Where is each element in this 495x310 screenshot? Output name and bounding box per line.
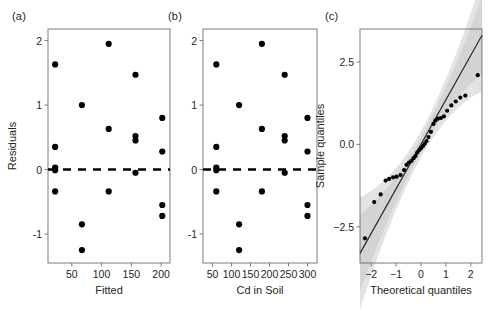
data-point <box>463 93 467 97</box>
data-point <box>476 73 480 77</box>
y-tick-label: -1 <box>188 228 197 240</box>
data-point <box>458 95 462 99</box>
data-point <box>379 192 383 196</box>
data-point <box>387 177 391 181</box>
x-tick-label: 100 <box>223 268 241 280</box>
x-tick-label: 50 <box>207 268 219 280</box>
y-tick-label: −2.5 <box>333 221 354 233</box>
data-point <box>398 173 402 177</box>
y-tick-label: 0.0 <box>339 138 354 150</box>
data-point <box>363 236 367 240</box>
qq-reference-line <box>360 35 482 253</box>
x-tick-label: 150 <box>123 268 141 280</box>
data-point <box>372 200 376 204</box>
y-tick-label: 2 <box>36 35 42 47</box>
figure-panel-group: (a) Residuals Fitted (b) Cd in Soil (c) … <box>0 0 495 310</box>
y-tick-label: 0 <box>191 164 197 176</box>
x-tick-label: −1 <box>390 268 402 280</box>
x-tick-label: 150 <box>242 268 260 280</box>
x-tick-label: 1 <box>443 268 449 280</box>
x-tick-label: 50 <box>66 268 78 280</box>
y-tick-label: 0 <box>36 164 42 176</box>
data-point <box>391 175 395 179</box>
x-tick-label: −2 <box>365 268 377 280</box>
data-point <box>395 175 399 179</box>
x-tick-label: 0 <box>418 268 424 280</box>
panel-c-plot <box>0 0 495 310</box>
data-point <box>445 109 449 113</box>
data-point <box>449 103 453 107</box>
y-tick-label: 2.5 <box>339 56 354 68</box>
data-point <box>424 139 428 143</box>
y-tick-label: 2 <box>191 35 197 47</box>
data-point <box>454 99 458 103</box>
panel-c-y-axis-title: Sample quantiles <box>314 104 326 188</box>
x-tick-label: 300 <box>299 268 317 280</box>
y-tick-label: -1 <box>33 228 42 240</box>
data-point <box>402 168 406 172</box>
y-tick-label: 1 <box>36 99 42 111</box>
y-tick-label: 1 <box>191 99 197 111</box>
x-tick-label: 200 <box>261 268 279 280</box>
x-tick-label: 2 <box>468 268 474 280</box>
data-point <box>429 130 433 134</box>
data-point <box>442 114 446 118</box>
x-tick-label: 250 <box>280 268 298 280</box>
x-tick-label: 200 <box>152 268 170 280</box>
x-tick-label: 100 <box>93 268 111 280</box>
data-point <box>426 135 430 139</box>
panel-c-x-axis-title: Theoretical quantiles <box>370 284 472 296</box>
